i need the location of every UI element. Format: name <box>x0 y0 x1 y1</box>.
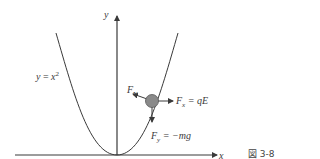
x-axis-label: x <box>219 151 223 159</box>
gravity-force-label: Fy = −mg <box>151 131 191 144</box>
gravity-force-rhs: = −mg <box>160 130 191 141</box>
y-axis-label: y <box>104 10 108 20</box>
normal-force-sub: N <box>133 90 138 98</box>
curve-exponent: 2 <box>56 70 60 78</box>
horizontal-force-rhs: = qE <box>185 95 208 106</box>
normal-force-label: FN <box>127 85 138 98</box>
curve-equals: = <box>40 71 51 82</box>
horizontal-force-label: Fx = qE <box>176 96 208 109</box>
figure-caption: 図 3-8 <box>248 150 275 159</box>
charged-ball <box>146 95 159 108</box>
curve-equation-label: y = x2 <box>36 71 59 82</box>
